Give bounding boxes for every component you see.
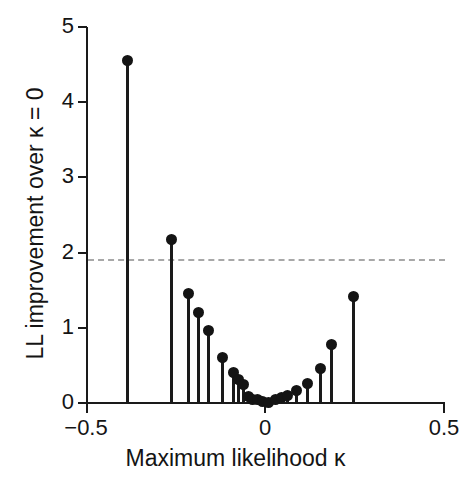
x-tick-label: 0 (225, 415, 305, 441)
chart-figure: 012345 −0.500.5 Maximum likelihood κ LL … (0, 0, 471, 485)
y-tick-mark (78, 176, 87, 178)
x-tick-mark (443, 404, 445, 413)
y-axis-label: LL improvement over κ = 0 (22, 59, 49, 389)
stem-line (197, 312, 200, 403)
data-point-marker (315, 363, 326, 374)
data-point-marker (291, 385, 302, 396)
y-tick-label: 4 (50, 88, 74, 114)
stem-line (221, 357, 224, 403)
data-point-marker (166, 234, 177, 245)
stem-line (207, 331, 210, 403)
data-point-marker (122, 55, 133, 66)
stem-line (352, 297, 355, 403)
data-point-marker (238, 379, 249, 390)
y-tick-mark (78, 252, 87, 254)
y-tick-label: 3 (50, 163, 74, 189)
stem-line (170, 239, 173, 403)
significance-threshold (88, 259, 445, 261)
stem-line (330, 344, 333, 403)
y-tick-label: 1 (50, 314, 74, 340)
data-point-marker (203, 325, 214, 336)
y-tick-mark (78, 327, 87, 329)
data-point-marker (217, 352, 228, 363)
x-tick-mark (86, 404, 88, 413)
x-tick-label: 0.5 (404, 415, 471, 441)
x-tick-label: −0.5 (46, 415, 126, 441)
data-point-marker (326, 339, 337, 350)
y-tick-label: 0 (50, 389, 74, 415)
stem-line (187, 293, 190, 403)
data-point-marker (183, 288, 194, 299)
y-tick-label: 2 (50, 239, 74, 265)
data-point-marker (193, 307, 204, 318)
y-tick-label: 5 (50, 13, 74, 39)
data-point-marker (302, 378, 313, 389)
y-tick-mark (78, 26, 87, 28)
x-axis-label: Maximum likelihood κ (0, 445, 471, 472)
y-axis-line (86, 27, 88, 404)
y-tick-mark (78, 101, 87, 103)
stem-line (126, 61, 129, 403)
data-point-marker (348, 291, 359, 302)
